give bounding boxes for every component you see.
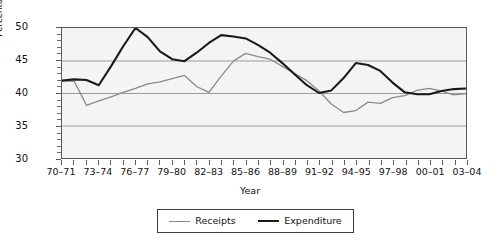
x-tick-mark	[123, 160, 124, 165]
x-tick-mark	[98, 160, 99, 165]
chart-figure: Percentage of GDP 3035404550 70–7173–747…	[0, 0, 500, 245]
x-tick-mark	[61, 160, 62, 165]
x-tick-label: 91–92	[305, 167, 334, 177]
x-tick-label: 97–98	[379, 167, 408, 177]
x-tick-mark	[356, 160, 357, 165]
x-tick-label: 70–71	[47, 167, 76, 177]
x-tick-mark	[159, 160, 160, 165]
x-tick-mark	[442, 160, 443, 165]
x-tick-mark	[73, 160, 74, 165]
x-tick-mark	[221, 160, 222, 165]
x-tick-mark	[381, 160, 382, 165]
x-tick-label: 79–80	[157, 167, 186, 177]
legend-item-receipts: Receipts	[169, 216, 235, 226]
x-tick-label: 82–83	[194, 167, 223, 177]
line-swatch-grey-icon	[169, 221, 190, 222]
x-tick-mark	[110, 160, 111, 165]
x-tick-mark	[319, 160, 320, 165]
x-tick-mark	[307, 160, 308, 165]
x-tick-mark	[172, 160, 173, 165]
x-tick-label: 76–77	[120, 167, 149, 177]
x-tick-mark	[430, 160, 431, 165]
x-tick-label: 73–74	[83, 167, 112, 177]
x-tick-mark	[135, 160, 136, 165]
x-tick-mark	[455, 160, 456, 165]
x-tick-mark	[406, 160, 407, 165]
x-tick-mark	[344, 160, 345, 165]
legend-label: Expenditure	[284, 216, 341, 226]
x-tick-mark	[369, 160, 370, 165]
x-tick-mark	[86, 160, 87, 165]
legend-label: Receipts	[195, 216, 235, 226]
x-axis-title: Year	[0, 185, 500, 196]
x-tick-mark	[258, 160, 259, 165]
x-tick-mark	[418, 160, 419, 165]
x-tick-mark	[209, 160, 210, 165]
x-tick-mark	[332, 160, 333, 165]
x-tick-mark	[184, 160, 185, 165]
x-tick-label: 94–95	[342, 167, 371, 177]
x-tick-mark	[393, 160, 394, 165]
x-tick-mark	[196, 160, 197, 165]
x-tick-label: 00–01	[416, 167, 445, 177]
x-tick-mark	[270, 160, 271, 165]
x-tick-mark	[295, 160, 296, 165]
x-tick-mark	[233, 160, 234, 165]
x-tick-mark	[246, 160, 247, 165]
chart-legend: Receipts Expenditure	[157, 209, 354, 233]
line-swatch-black-icon	[258, 220, 279, 222]
x-tick-label: 03–04	[453, 167, 482, 177]
x-tick-mark	[283, 160, 284, 165]
x-tick-label: 88–89	[268, 167, 297, 177]
x-tick-mark	[147, 160, 148, 165]
x-tick-mark	[467, 160, 468, 165]
x-tick-label: 85–86	[231, 167, 260, 177]
legend-item-expenditure: Expenditure	[258, 216, 341, 226]
